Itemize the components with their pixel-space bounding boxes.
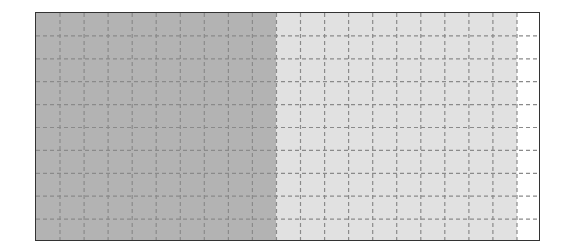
grid-diagram [35, 12, 540, 241]
grid-lines [36, 13, 540, 241]
